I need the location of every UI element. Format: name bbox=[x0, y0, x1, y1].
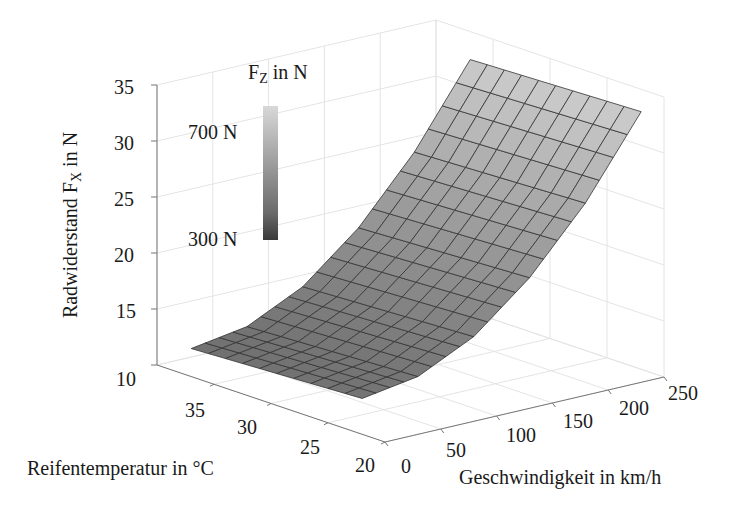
z-tick-25: 25 bbox=[114, 189, 134, 209]
z-tick-15: 15 bbox=[116, 301, 136, 321]
temperature-axis-label: Reifentemperatur in °C bbox=[27, 458, 214, 478]
speed-tick-0: 0 bbox=[401, 456, 411, 476]
speed-tick-50: 50 bbox=[446, 440, 466, 460]
z-tick-10: 10 bbox=[116, 369, 136, 389]
chart-root: Radwiderstand FX in N 35 30 25 20 15 10 … bbox=[0, 0, 733, 516]
z-tick-35: 35 bbox=[114, 77, 134, 97]
colorbar-label-300: 300 N bbox=[188, 229, 237, 249]
colorbar-label-700: 700 N bbox=[188, 122, 237, 142]
temp-tick-30: 30 bbox=[237, 417, 257, 437]
colorbar bbox=[263, 106, 278, 240]
speed-tick-150: 150 bbox=[563, 411, 593, 431]
z-axis-label: Radwiderstand FX in N bbox=[59, 132, 85, 318]
speed-axis-label: Geschwindigkeit in km/h bbox=[459, 467, 661, 487]
speed-tick-200: 200 bbox=[619, 398, 649, 418]
z-tick-20: 20 bbox=[114, 245, 134, 265]
speed-tick-100: 100 bbox=[506, 425, 536, 445]
speed-tick-250: 250 bbox=[668, 383, 698, 403]
temp-tick-20: 20 bbox=[355, 455, 375, 475]
colorbar-title: FZ in N bbox=[248, 62, 308, 86]
surface-plot-3d bbox=[0, 0, 733, 516]
temp-tick-25: 25 bbox=[300, 437, 320, 457]
temp-tick-35: 35 bbox=[185, 400, 205, 420]
z-tick-30: 30 bbox=[114, 133, 134, 153]
